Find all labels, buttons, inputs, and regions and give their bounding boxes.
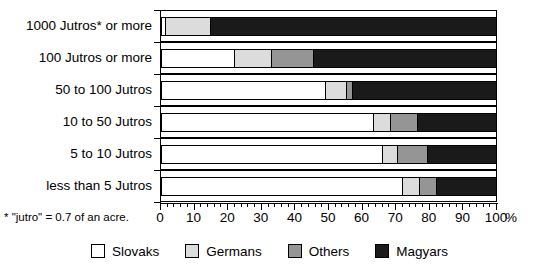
x-axis-minor-tick bbox=[436, 204, 437, 207]
x-axis-minor-tick bbox=[173, 204, 174, 207]
stacked-bar bbox=[161, 113, 497, 132]
bar-row bbox=[161, 106, 497, 138]
legend-item-magyars[interactable]: Magyars bbox=[375, 244, 448, 259]
x-axis-minor-tick bbox=[187, 204, 188, 207]
bar-segment-slovaks bbox=[161, 177, 403, 196]
x-axis-minor-tick bbox=[368, 204, 369, 207]
stacked-bar bbox=[161, 49, 497, 68]
bar-segment-magyars bbox=[314, 49, 497, 68]
x-axis-minor-tick bbox=[402, 204, 403, 207]
y-axis-tick bbox=[154, 138, 161, 139]
y-axis-tick bbox=[154, 10, 161, 11]
y-axis-tick bbox=[154, 74, 161, 75]
x-axis-minor-tick bbox=[200, 204, 201, 207]
x-axis-minor-tick bbox=[288, 204, 289, 207]
x-axis-minor-tick bbox=[247, 204, 248, 207]
stacked-bar bbox=[161, 145, 497, 164]
bar-segment-others bbox=[391, 113, 418, 132]
bar-segment-others bbox=[272, 49, 314, 68]
x-axis-minor-tick bbox=[409, 204, 410, 207]
x-axis-minor-tick bbox=[476, 204, 477, 207]
category-axis-labels: 1000 Jutros* or more100 Jutros or more50… bbox=[0, 10, 152, 202]
x-axis-minor-tick bbox=[456, 204, 457, 207]
legend-swatch-icon bbox=[91, 244, 105, 258]
legend-item-germans[interactable]: Germans bbox=[185, 244, 262, 259]
category-label: 50 to 100 Jutros bbox=[0, 82, 152, 97]
x-axis-line bbox=[160, 203, 498, 204]
bar-segment-magyars bbox=[418, 113, 497, 132]
bar-row bbox=[161, 74, 497, 106]
bar-row bbox=[161, 42, 497, 74]
x-axis-minor-tick bbox=[241, 204, 242, 207]
x-axis-minor-tick bbox=[308, 204, 309, 207]
x-axis-minor-tick bbox=[180, 204, 181, 207]
footnote: * "jutro" = 0.7 of an acre. bbox=[4, 210, 129, 224]
x-axis-minor-tick bbox=[442, 204, 443, 207]
stacked-bar bbox=[161, 17, 497, 36]
x-axis-minor-tick bbox=[321, 204, 322, 207]
bar-segment-magyars bbox=[428, 145, 497, 164]
x-axis-minor-tick bbox=[315, 204, 316, 207]
x-axis-minor-tick bbox=[415, 204, 416, 207]
category-label: 1000 Jutros* or more bbox=[0, 18, 152, 33]
y-axis-tick bbox=[154, 42, 161, 43]
x-axis-minor-tick bbox=[281, 204, 282, 207]
bar-segment-slovaks bbox=[161, 49, 235, 68]
x-axis-minor-tick bbox=[375, 204, 376, 207]
x-axis-minor-tick bbox=[388, 204, 389, 207]
x-axis-minor-tick bbox=[422, 204, 423, 207]
x-axis-minor-tick bbox=[382, 204, 383, 207]
stacked-bar bbox=[161, 81, 497, 100]
legend-item-others[interactable]: Others bbox=[288, 244, 350, 259]
legend-swatch-icon bbox=[375, 244, 389, 258]
category-label: less than 5 Jutros bbox=[0, 178, 152, 193]
bar-segment-slovaks bbox=[161, 145, 383, 164]
bar-segment-magyars bbox=[353, 81, 497, 100]
x-axis-minor-tick bbox=[449, 204, 450, 207]
y-axis-tick bbox=[154, 170, 161, 171]
legend-item-slovaks[interactable]: Slovaks bbox=[91, 244, 159, 259]
bar-row bbox=[161, 170, 497, 202]
x-axis-minor-tick bbox=[274, 204, 275, 207]
y-axis-tick bbox=[154, 106, 161, 107]
x-axis-minor-tick bbox=[341, 204, 342, 207]
x-axis-minor-tick bbox=[355, 204, 356, 207]
bar-segment-slovaks bbox=[161, 113, 374, 132]
legend-label: Germans bbox=[206, 244, 262, 259]
plot-area bbox=[161, 10, 497, 202]
legend-label: Magyars bbox=[396, 244, 448, 259]
bar-row bbox=[161, 10, 497, 42]
bar-segment-magyars bbox=[437, 177, 497, 196]
stacked-bar-chart: 1000 Jutros* or more100 Jutros or more50… bbox=[0, 0, 539, 271]
x-axis-minor-tick bbox=[268, 204, 269, 207]
x-axis-minor-tick bbox=[348, 204, 349, 207]
x-axis-minor-tick bbox=[483, 204, 484, 207]
bar-segment-slovaks bbox=[161, 81, 326, 100]
bar-segment-germans bbox=[383, 145, 398, 164]
x-axis-minor-tick bbox=[167, 204, 168, 207]
legend-swatch-icon bbox=[288, 244, 302, 258]
legend-label: Slovaks bbox=[112, 244, 159, 259]
bar-row bbox=[161, 138, 497, 170]
legend-swatch-icon bbox=[185, 244, 199, 258]
category-label: 10 to 50 Jutros bbox=[0, 114, 152, 129]
x-axis-minor-tick bbox=[469, 204, 470, 207]
category-label: 5 to 10 Jutros bbox=[0, 146, 152, 161]
bar-segment-germans bbox=[403, 177, 420, 196]
legend: SlovaksGermansOthersMagyars bbox=[0, 240, 539, 262]
bar-segment-others bbox=[420, 177, 437, 196]
x-axis-minor-tick bbox=[335, 204, 336, 207]
bar-segment-germans bbox=[374, 113, 391, 132]
bar-segment-others bbox=[398, 145, 428, 164]
bar-segment-germans bbox=[326, 81, 348, 100]
x-axis-minor-tick bbox=[489, 204, 490, 207]
x-axis-minor-tick bbox=[220, 204, 221, 207]
x-axis-minor-tick bbox=[301, 204, 302, 207]
x-axis-minor-tick bbox=[254, 204, 255, 207]
bar-segment-germans bbox=[235, 49, 272, 68]
x-axis-tick-label: 100 bbox=[476, 210, 516, 225]
stacked-bar bbox=[161, 177, 497, 196]
legend-label: Others bbox=[309, 244, 350, 259]
category-label: 100 Jutros or more bbox=[0, 50, 152, 65]
x-axis-minor-tick bbox=[234, 204, 235, 207]
